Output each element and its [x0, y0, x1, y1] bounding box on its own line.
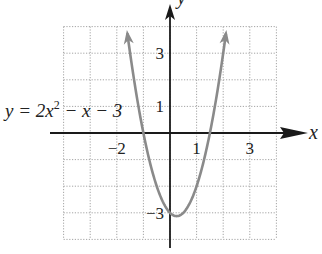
y-tick-label: −3 — [146, 204, 164, 223]
parabola-curve — [127, 34, 225, 216]
equation-label: y = 2x2 − x − 3 — [3, 98, 122, 121]
x-axis-label: x — [308, 121, 318, 143]
y-tick-label: 3 — [156, 44, 165, 63]
x-tick-label: 1 — [192, 139, 201, 158]
y-tick-label: 1 — [156, 97, 165, 116]
y-axis-label: y — [175, 0, 186, 9]
parabola-graph: −21331−3 x y y = 2x2 − x − 3 — [0, 0, 322, 254]
axes — [50, 4, 308, 248]
curve-arrowheads — [124, 30, 230, 45]
x-tick-label: 3 — [246, 139, 255, 158]
x-tick-label: −2 — [108, 139, 126, 158]
